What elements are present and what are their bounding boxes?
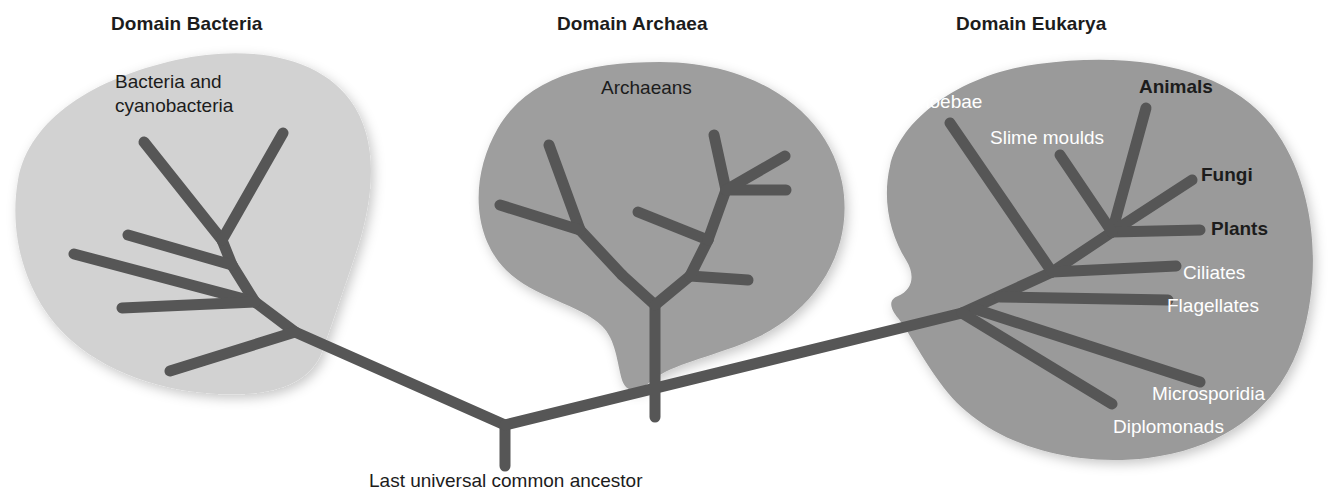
taxon-label-microsporidia: Microsporidia [1152, 382, 1265, 406]
branch-bacteria-tip-5 [122, 302, 255, 308]
group-label-bacteria-line2: cyanobacteria [115, 95, 233, 116]
taxon-label-animals: Animals [1139, 75, 1213, 99]
group-label-bacteria: Bacteria and cyanobacteria [115, 70, 233, 118]
domain-title-bacteria: Domain Bacteria [111, 13, 262, 35]
taxon-label-ciliates: Ciliates [1183, 261, 1245, 285]
branch-eukarya-tip-plants [1112, 230, 1200, 232]
branch-eukarya-tip-flagellates [1000, 297, 1168, 300]
branch-eukarya-tip-ciliates [1052, 266, 1176, 272]
domain-title-eukarya: Domain Eukarya [956, 13, 1106, 35]
domain-title-archaea: Domain Archaea [557, 13, 708, 35]
group-label-bacteria-line1: Bacteria and [115, 71, 222, 92]
root-label-luca: Last universal common ancestor [369, 470, 643, 492]
group-label-archaea: Archaeans [601, 76, 692, 100]
branch-archaea-tip-3 [690, 276, 748, 280]
branch-root-to-bacteria [295, 332, 505, 425]
taxon-label-flagellates: Flagellates [1167, 294, 1259, 318]
taxon-label-slime-moulds: Slime moulds [990, 126, 1104, 150]
taxon-label-plants: Plants [1211, 217, 1268, 241]
taxon-label-diplomonads: Diplomonads [1113, 415, 1224, 439]
taxon-label-amoebae: Amoebae [901, 90, 982, 114]
taxon-label-fungi: Fungi [1201, 163, 1253, 187]
phylogenetic-tree-diagram: Domain Bacteria Domain Archaea Domain Eu… [0, 0, 1329, 500]
